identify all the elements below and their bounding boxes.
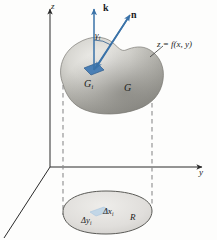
- delta-x-subscript: i: [112, 211, 114, 217]
- delta-y-subscript: i: [90, 220, 92, 226]
- vector-k-label: k: [103, 3, 109, 13]
- angle-gamma-symbol: γ: [95, 30, 99, 40]
- delta-y-label: Δyi: [81, 216, 91, 226]
- surface-equation-label: z = f(x, y): [157, 40, 192, 49]
- surface-region-label: G: [124, 83, 131, 93]
- angle-gamma-subscript: i: [99, 35, 101, 41]
- delta-x-symbol: Δx: [103, 206, 112, 216]
- surface-blob: [61, 37, 164, 114]
- base-region-label: R: [130, 213, 136, 222]
- x-axis: [4, 167, 50, 238]
- angle-gamma-label: γi: [95, 31, 100, 41]
- z-axis-label: z: [51, 2, 55, 11]
- surface-integral-diagram: z y k n γi z = f(x, y) Gi G Δxi Δyi R: [0, 0, 217, 240]
- surface-patch-subscript: i: [91, 83, 93, 90]
- delta-y-symbol: Δy: [81, 215, 90, 225]
- delta-x-label: Δxi: [103, 207, 113, 217]
- diagram-canvas: [0, 0, 217, 240]
- y-axis-label: y: [199, 168, 203, 177]
- vector-n-label: n: [131, 10, 137, 20]
- surface-patch-label: Gi: [84, 79, 93, 90]
